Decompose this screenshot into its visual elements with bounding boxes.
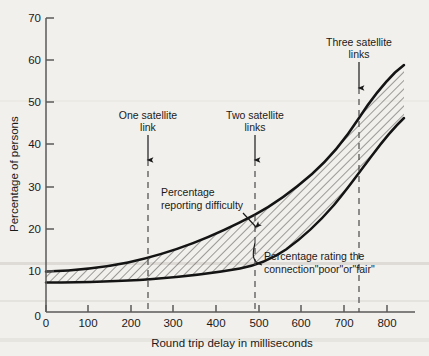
x-tick-label: 400 (206, 317, 225, 329)
x-tick-label: 300 (163, 317, 182, 329)
three-satellite-links-line2: links (348, 48, 369, 60)
lower-curve-label-line1: Percentage rating the (264, 250, 365, 262)
x-tick-label: 500 (249, 317, 268, 329)
y-tick-label: 10 (28, 265, 41, 277)
y-tick-label: 20 (28, 223, 41, 235)
y-tick-label: 0 (35, 310, 41, 322)
x-tick-label: 100 (78, 317, 97, 329)
one-satellite-link-line1: One satellite (119, 109, 178, 121)
y-tick-label: 30 (28, 181, 41, 193)
x-axis-title: Round trip delay in milliseconds (151, 337, 313, 349)
y-axis-ticks (46, 18, 54, 271)
x-axis-ticks (46, 305, 387, 312)
x-tick-label: 800 (377, 317, 396, 329)
y-tick-label: 60 (28, 54, 41, 66)
x-tick-label: 700 (334, 317, 353, 329)
chart-svg: 70 60 50 40 30 20 10 0 0 100 200 300 (0, 0, 429, 356)
upper-curve-label-line2: reporting difficulty (161, 199, 244, 211)
x-tick-label: 200 (121, 317, 140, 329)
one-satellite-link-line2: link (140, 121, 157, 133)
x-tick-label: 600 (291, 317, 310, 329)
three-satellite-links-line1: Three satellite (326, 36, 392, 48)
chart-figure: 70 60 50 40 30 20 10 0 0 100 200 300 (0, 0, 429, 356)
y-axis-title: Percentage of persons (8, 116, 20, 232)
y-tick-label: 40 (28, 138, 41, 150)
lower-curve-label-line2: connection"poor"or"fair" (264, 263, 375, 275)
two-satellite-links-line1: Two satellite (226, 109, 284, 121)
y-tick-label: 50 (28, 96, 41, 108)
y-tick-label: 70 (28, 12, 41, 24)
x-axis-tick-labels: 0 100 200 300 400 500 600 700 800 (43, 317, 397, 329)
y-axis-tick-labels: 70 60 50 40 30 20 10 0 (28, 12, 41, 322)
upper-curve-label-line1: Percentage (161, 186, 215, 198)
two-satellite-links-line2: links (244, 121, 265, 133)
x-tick-label: 0 (43, 317, 49, 329)
